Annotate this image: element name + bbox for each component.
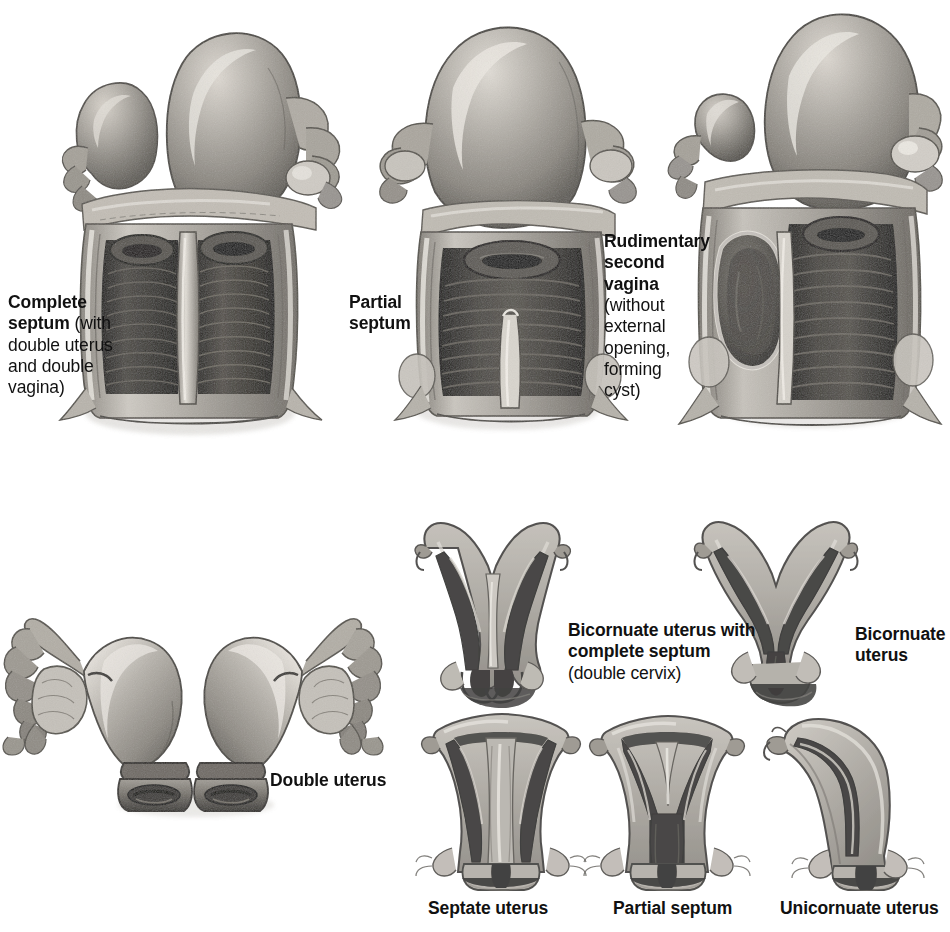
- label-rudimentary-line8: cyst): [604, 380, 640, 400]
- label-rudimentary-line7: forming: [604, 359, 662, 379]
- figure-bicornuate-uterus-with-complete-septum: [412, 512, 590, 712]
- label-rudimentary-line5: external: [604, 316, 665, 336]
- figure-septate-uterus: [412, 712, 590, 894]
- label-rudimentary-line6: opening,: [604, 338, 670, 358]
- figure-unicornuate-uterus: [760, 712, 932, 894]
- label-bicornuate-uterus: Bicornuate uterus: [855, 624, 950, 667]
- label-bicornuate-complete-line2: complete septum: [568, 641, 710, 661]
- label-septate-uterus: Septate uterus: [428, 898, 548, 919]
- label-rudimentary-second-vagina: Rudimentary second vagina (without exter…: [604, 231, 712, 402]
- label-partial-septum-top-line2: septum: [349, 313, 411, 333]
- label-unicornuate-uterus: Unicornuate uterus: [780, 898, 939, 919]
- label-complete-septum-bold-2: septum: [8, 313, 70, 333]
- label-partial-septum-top-line1: Partial: [349, 292, 402, 312]
- label-bicornuate-with-complete-septum: Bicornuate uterus with complete septum (…: [568, 620, 788, 684]
- label-rudimentary-line2: second: [604, 252, 665, 272]
- label-bicornuate-complete-line1: Bicornuate uterus with: [568, 620, 755, 640]
- label-rudimentary-line3: vagina: [604, 274, 659, 294]
- label-bicornuate-line2: uterus: [855, 645, 908, 665]
- figure-partial-septum-specimen: [375, 14, 640, 444]
- label-double-uterus: Double uterus: [270, 770, 386, 791]
- label-complete-septum-line3: double uterus: [8, 335, 113, 355]
- label-bicornuate-line1: Bicornuate: [855, 624, 945, 644]
- figure-partial-septum-coronal: [578, 712, 756, 894]
- label-bicornuate-complete-line3: (double cervix): [568, 663, 681, 683]
- label-complete-septum-regular: (with: [70, 313, 111, 333]
- label-rudimentary-line4: (without: [604, 295, 664, 315]
- label-complete-septum-bold: Complete: [8, 292, 87, 312]
- label-complete-septum-line4: and double: [8, 356, 94, 376]
- label-partial-septum-bottom: Partial septum: [613, 898, 732, 919]
- label-complete-septum-line5: vagina): [8, 377, 65, 397]
- label-partial-septum-top: Partial septum: [349, 292, 459, 335]
- label-rudimentary-line1: Rudimentary: [604, 231, 710, 251]
- label-complete-septum: Complete septum (with double uterus and …: [8, 292, 158, 399]
